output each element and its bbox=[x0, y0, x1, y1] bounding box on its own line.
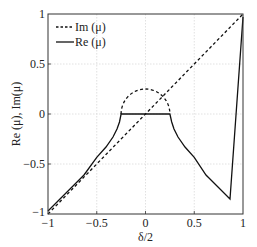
x-tick-0: 0 bbox=[143, 216, 149, 230]
x-tick-0.5: 0.5 bbox=[187, 216, 202, 230]
y-tick-0.5: 0.5 bbox=[30, 57, 45, 71]
series-im-mu-left bbox=[48, 139, 121, 214]
x-tick--1: −1 bbox=[42, 216, 55, 230]
x-axis-label: δ/2 bbox=[138, 230, 153, 244]
chart: 1 0.5 0 −0.5 −1 −1 −0.5 0 0.5 1 δ/2 Re (… bbox=[0, 0, 257, 247]
x-tick-1: 1 bbox=[240, 216, 246, 230]
legend-label-re: Re (μ) bbox=[75, 35, 106, 49]
series-im-mu-right bbox=[121, 14, 243, 139]
y-tick--0.5: −0.5 bbox=[23, 157, 45, 171]
y-axis-label: Re (μ), Im(μ) bbox=[9, 82, 23, 147]
x-tick--0.5: −0.5 bbox=[86, 216, 108, 230]
y-tick-labels: 1 0.5 0 −0.5 −1 bbox=[23, 7, 45, 219]
y-tick-0: 0 bbox=[39, 107, 45, 121]
legend-label-im: Im (μ) bbox=[75, 20, 106, 34]
x-tick-labels: −1 −0.5 0 0.5 1 bbox=[42, 216, 246, 230]
legend: Im (μ) Re (μ) bbox=[56, 20, 106, 49]
y-tick-1: 1 bbox=[39, 7, 45, 21]
